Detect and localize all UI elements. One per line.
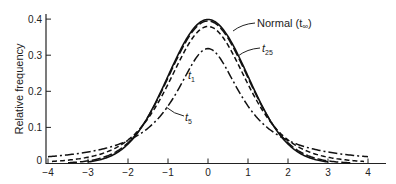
- curve-t1: [48, 49, 368, 157]
- y-ticks: 00.10.20.30.4: [28, 14, 51, 166]
- curve-normal: [88, 19, 328, 161]
- y-tick-label: 0: [36, 155, 42, 166]
- t5-label: t5: [185, 111, 192, 125]
- x-tick-label: −3: [82, 167, 94, 178]
- x-tick-label: 1: [245, 167, 251, 178]
- t25-leader: [238, 48, 260, 56]
- x-tick-label: 2: [285, 167, 291, 178]
- t5-leader: [166, 107, 184, 116]
- x-tick-label: −4: [42, 167, 54, 178]
- normal-label: Normal (t∞): [257, 17, 312, 31]
- x-tick-label: 4: [365, 167, 371, 178]
- x-tick-label: 3: [325, 167, 331, 178]
- x-tick-label: −2: [122, 167, 134, 178]
- t25-label: t25: [262, 42, 273, 56]
- y-tick-label: 0.2: [28, 86, 42, 97]
- y-axis-label: Relative frequency: [13, 43, 25, 135]
- y-tick-label: 0.4: [28, 14, 42, 25]
- t-distribution-chart: 00.10.20.30.4 −4−3−2−101234 Relative fre…: [0, 0, 396, 184]
- x-tick-label: 0: [205, 167, 211, 178]
- curve-t5: [52, 26, 364, 161]
- curve-t25: [68, 21, 352, 163]
- y-tick-label: 0.1: [28, 122, 42, 133]
- normal-leader: [233, 23, 255, 31]
- y-tick-label: 0.3: [28, 50, 42, 61]
- t1-label: t1: [188, 69, 195, 83]
- curves: [48, 19, 368, 162]
- x-tick-label: −1: [162, 167, 174, 178]
